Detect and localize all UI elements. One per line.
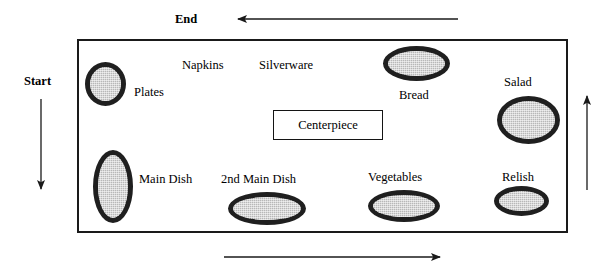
- centerpiece-label: Centerpiece: [298, 119, 358, 132]
- buffet-diagram: End Start Plates Napkins Silverware Brea…: [0, 0, 606, 274]
- dish-label-2nd-main-dish: 2nd Main Dish: [221, 173, 296, 186]
- end-label: End: [175, 13, 197, 26]
- dish-main-dish[interactable]: [93, 150, 133, 223]
- centerpiece-box[interactable]: Centerpiece: [273, 110, 383, 140]
- dish-label-main-dish: Main Dish: [139, 173, 192, 186]
- dish-label-vegetables: Vegetables: [368, 171, 422, 184]
- dish-relish[interactable]: [494, 186, 549, 216]
- dish-vegetables[interactable]: [368, 190, 440, 222]
- dish-label-salad: Salad: [504, 76, 532, 89]
- start-label: Start: [24, 75, 51, 88]
- dish-2nd-main-dish[interactable]: [228, 192, 306, 225]
- dish-salad[interactable]: [497, 96, 560, 144]
- dish-label-plates: Plates: [134, 86, 164, 99]
- dish-plates[interactable]: [85, 62, 126, 106]
- dish-bread[interactable]: [383, 46, 450, 81]
- dish-label-relish: Relish: [502, 171, 534, 184]
- dish-label-bread: Bread: [399, 89, 429, 102]
- dish-label-silverware: Silverware: [259, 59, 313, 72]
- dish-label-napkins: Napkins: [182, 59, 224, 72]
